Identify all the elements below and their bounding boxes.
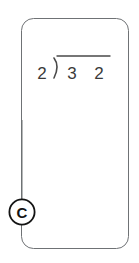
long-division-diagram: 2 3 2 C bbox=[0, 0, 139, 263]
divisor-digit: 2 bbox=[37, 64, 46, 83]
dividend-digit-ones: 2 bbox=[94, 64, 103, 83]
worksheet-card[interactable] bbox=[22, 19, 129, 249]
callout-badge-label: C bbox=[17, 204, 28, 221]
dividend-digit-tens: 3 bbox=[67, 64, 76, 83]
diagram-canvas: 2 3 2 C bbox=[0, 0, 139, 263]
